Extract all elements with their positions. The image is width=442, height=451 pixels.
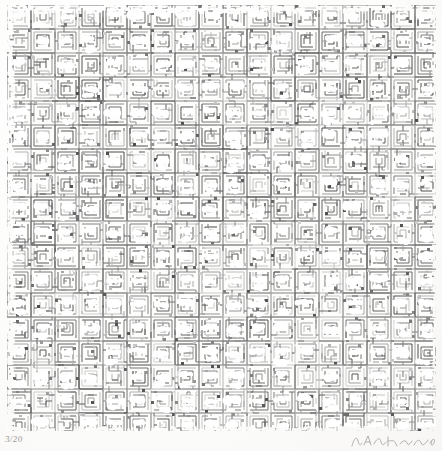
printed-pattern-block (7, 5, 436, 431)
artwork-page: 3/20 (0, 0, 442, 451)
edition-number-annotation: 3/20 (4, 434, 23, 444)
artist-signature-mark (344, 430, 440, 450)
labyrinth-pattern-canvas (7, 5, 436, 431)
